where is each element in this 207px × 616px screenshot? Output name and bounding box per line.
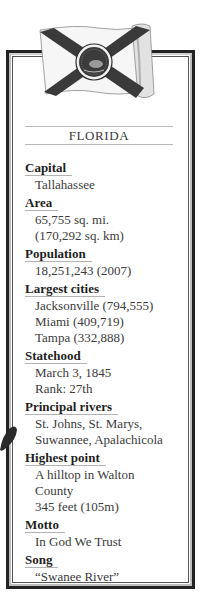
fact-highest-point: Highest point A hilltop in Walton County…: [25, 448, 185, 515]
fact-song: Song “Swanee River”: [25, 550, 185, 585]
fact-value: “Swanee River”: [35, 569, 185, 585]
state-title: FLORIDA: [25, 128, 173, 144]
fact-value: St. Johns, St. Marys,: [35, 416, 185, 432]
fact-label: Song: [25, 552, 58, 568]
fact-value: Miami (409,719): [35, 314, 185, 330]
fact-population: Population 18,251,243 (2007): [25, 244, 185, 279]
fact-value: County: [35, 483, 185, 499]
fact-value: 18,251,243 (2007): [35, 263, 185, 279]
fact-value: Tallahassee: [35, 177, 185, 193]
title-rule-top: [25, 126, 173, 127]
fact-label: Capital: [25, 160, 72, 176]
fact-value: Jacksonville (794,555): [35, 298, 185, 314]
fact-statehood: Statehood March 3, 1845 Rank: 27th: [25, 346, 185, 397]
fact-value: Rank: 27th: [35, 381, 185, 397]
fact-label: Area: [25, 195, 58, 211]
fact-motto: Motto In God We Trust: [25, 515, 185, 550]
fact-principal-rivers: Principal rivers St. Johns, St. Marys, S…: [25, 397, 185, 448]
title-rule-bottom: [25, 144, 173, 145]
fact-capital: Capital Tallahassee: [25, 158, 185, 193]
fact-label: Population: [25, 246, 92, 262]
fact-value: March 3, 1845: [35, 365, 185, 381]
fact-value: 345 feet (105m): [35, 499, 185, 515]
fact-label: Largest cities: [25, 281, 105, 297]
florida-flag-icon: [36, 22, 156, 104]
fact-value: A hilltop in Walton: [35, 467, 185, 483]
fact-value: In God We Trust: [35, 534, 185, 550]
fact-area: Area 65,755 sq. mi. (170,292 sq. km): [25, 193, 185, 244]
fact-largest-cities: Largest cities Jacksonville (794,555) Mi…: [25, 279, 185, 346]
fact-label: Highest point: [25, 450, 106, 466]
fact-value: 65,755 sq. mi.: [35, 212, 185, 228]
fact-label: Statehood: [25, 348, 87, 364]
fact-value: (170,292 sq. km): [35, 228, 185, 244]
decorative-shape-icon: [0, 424, 18, 452]
fact-label: Motto: [25, 517, 65, 533]
fact-value: Tampa (332,888): [35, 330, 185, 346]
state-facts-list: Capital Tallahassee Area 65,755 sq. mi. …: [25, 158, 185, 585]
fact-label: Principal rivers: [25, 399, 118, 415]
fact-value: Suwannee, Apalachicola: [35, 432, 185, 448]
